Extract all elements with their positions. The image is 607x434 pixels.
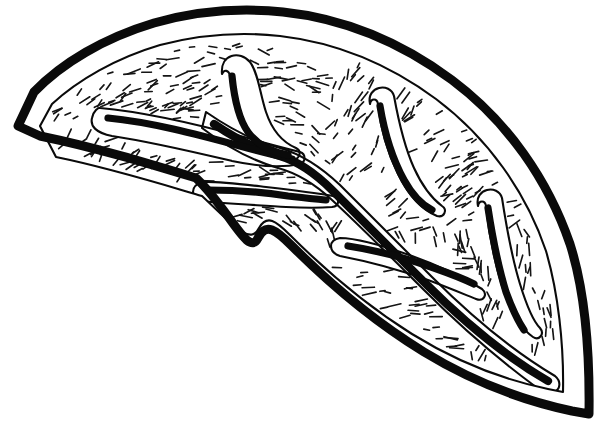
hatch-dash <box>245 177 251 178</box>
hatch-dash <box>187 102 193 103</box>
hatch-dash <box>275 68 282 69</box>
hatch-dash <box>508 215 514 216</box>
hatch-dash <box>318 134 325 135</box>
hatch-dash <box>424 329 430 330</box>
hatch-dash <box>527 237 528 243</box>
hatch-dash <box>187 71 200 72</box>
hatch-dash <box>525 265 526 273</box>
hatch-dash <box>553 329 554 340</box>
hatch-dash <box>529 243 530 255</box>
hatch-dash <box>399 277 410 278</box>
hatch-dash <box>408 310 419 311</box>
hatch-dash <box>353 285 361 286</box>
hatch-dash <box>488 267 489 281</box>
figure-root: Leaf cross-section line drawing <box>0 0 607 434</box>
hatch-dash <box>276 116 285 117</box>
hatch-dash <box>463 258 475 259</box>
hatch-dash <box>458 243 459 256</box>
hatch-dash <box>192 82 199 83</box>
hatch-dash <box>157 59 167 60</box>
hatch-dash <box>226 166 234 167</box>
hatch-dash <box>530 263 531 276</box>
hatch-dash <box>191 117 199 118</box>
hatch-dash <box>137 102 145 103</box>
hatch-dash <box>497 303 498 309</box>
hatch-dash <box>546 329 547 337</box>
hatch-dash <box>485 356 486 361</box>
hatch-dash <box>543 308 544 314</box>
hatch-dash <box>517 245 518 256</box>
leaf-cross-section-diagram <box>0 0 607 434</box>
hatch-dash <box>450 348 464 349</box>
hatch-dash <box>276 61 283 62</box>
hatch-dash <box>225 49 231 50</box>
hatch-dash <box>124 73 135 74</box>
hatch-dash <box>297 63 305 64</box>
hatch-dash <box>216 96 221 97</box>
hatch-dash <box>454 263 466 264</box>
hatch-dash <box>444 338 458 339</box>
hatch-dash <box>260 179 269 180</box>
hatch-dash <box>411 313 420 314</box>
hatch-dash <box>175 50 180 51</box>
hatch-dash <box>433 327 439 328</box>
hatch-dash <box>283 103 291 104</box>
hatch-dash <box>362 287 374 288</box>
hatch-dash <box>427 305 436 306</box>
hatch-dash <box>190 47 195 48</box>
hatch-dash <box>463 220 471 221</box>
hatch-dash <box>189 110 200 111</box>
hatch-dash <box>332 95 333 102</box>
hatch-dash <box>173 118 180 119</box>
